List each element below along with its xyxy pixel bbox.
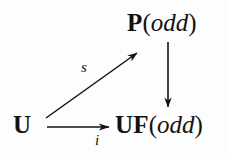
node-p-odd: P(odd) — [127, 10, 197, 35]
node-uf-odd-italic: odd — [157, 111, 195, 138]
commutative-diagram: P(odd) UF(odd) U s i — [0, 0, 229, 154]
node-uf-odd-bold: UF — [115, 111, 149, 138]
edge-label-s: s — [81, 60, 87, 75]
edge-label-i: i — [95, 133, 99, 148]
node-u-bold: U — [13, 111, 31, 138]
node-p-odd-italic: odd — [151, 9, 189, 36]
node-uf-odd-close-paren: ) — [195, 111, 203, 138]
node-p-odd-bold: P — [127, 9, 142, 36]
node-uf-odd-open-paren: ( — [149, 111, 157, 138]
node-p-odd-open-paren: ( — [142, 9, 150, 36]
edge-s-arrow — [46, 53, 137, 118]
node-uf-odd: UF(odd) — [115, 112, 203, 137]
node-u: U — [13, 112, 31, 137]
node-p-odd-close-paren: ) — [188, 9, 196, 36]
